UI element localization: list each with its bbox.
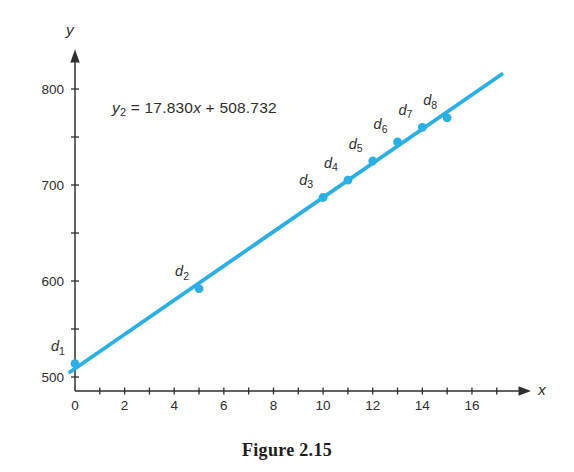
equation-x-var: x (193, 99, 201, 116)
data-point-d5 (368, 157, 377, 166)
y-tick-label: 600 (41, 274, 64, 289)
figure-2-15: 0246810121416500600700800d1d2d3d4d5d6d7d… (0, 0, 574, 472)
point-label-d6: d6 (374, 116, 388, 135)
point-label-d5: d5 (349, 136, 363, 155)
point-label-d2: d2 (175, 263, 189, 282)
x-tick-label: 8 (270, 398, 278, 413)
x-tick-label: 16 (464, 398, 479, 413)
data-point-d2 (195, 284, 204, 293)
x-axis-label: x (538, 381, 546, 399)
data-point-d3 (319, 193, 328, 202)
data-point-d7 (418, 123, 427, 132)
x-tick-label: 12 (365, 398, 380, 413)
plot-svg: 0246810121416500600700800d1d2d3d4d5d6d7d… (0, 0, 574, 472)
equation-y-var: y (112, 99, 120, 116)
x-tick-label: 6 (220, 398, 228, 413)
point-label-d7: d7 (398, 102, 412, 121)
data-point-d8 (443, 113, 452, 122)
data-point-d1 (71, 359, 80, 368)
x-tick-label: 4 (170, 398, 178, 413)
y-tick-label: 800 (41, 82, 64, 97)
equation-eq-sign: = (126, 99, 144, 116)
point-label-d8: d8 (423, 92, 437, 111)
fit-equation: y2 = 17.830x + 508.732 (112, 99, 277, 117)
x-tick-label: 10 (316, 398, 331, 413)
data-point-d6 (393, 137, 402, 146)
equation-plus-sign: + (201, 99, 219, 116)
x-tick-label: 0 (71, 398, 79, 413)
figure-caption: Figure 2.15 (0, 440, 574, 461)
y-tick-label: 500 (41, 370, 64, 385)
point-label-d4: d4 (324, 155, 338, 174)
data-point-d4 (344, 176, 353, 185)
equation-intercept: 508.732 (219, 99, 276, 116)
fit-line (70, 74, 502, 372)
x-tick-label: 14 (415, 398, 431, 413)
x-axis-arrow-icon (519, 386, 532, 395)
equation-slope: 17.830 (145, 99, 194, 116)
point-label-d1: d1 (51, 338, 65, 357)
point-label-d3: d3 (299, 172, 313, 191)
y-axis-arrow-icon (70, 50, 79, 63)
x-tick-label: 2 (121, 398, 129, 413)
y-axis-label: y (66, 21, 74, 39)
y-tick-label: 700 (41, 178, 64, 193)
